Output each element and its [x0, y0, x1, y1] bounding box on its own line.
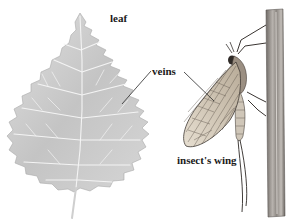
label-insect-wing: insect's wing	[177, 155, 237, 166]
figure-canvas	[0, 0, 291, 220]
insect-wing	[184, 62, 241, 147]
mayfly-illustration	[184, 25, 266, 212]
plant-stalk	[266, 9, 285, 217]
label-veins: veins	[152, 66, 176, 77]
leaf-illustration	[7, 13, 149, 218]
leader-line-wing-veins	[184, 72, 214, 101]
label-leaf: leaf	[110, 13, 127, 24]
